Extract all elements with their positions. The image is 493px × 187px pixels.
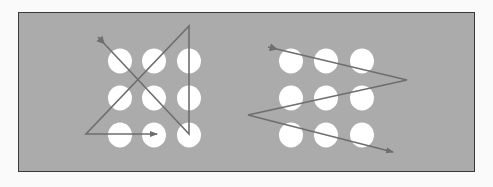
start-arrow-icon: [96, 36, 104, 45]
start-arrow-icon: [269, 44, 278, 52]
dot: [108, 123, 132, 148]
dot: [142, 123, 166, 148]
dot: [142, 49, 166, 74]
nine-dots-diagram: [0, 0, 493, 187]
